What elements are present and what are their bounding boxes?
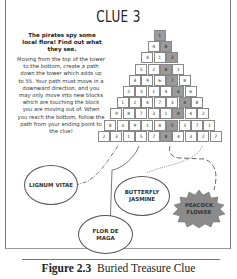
flower-lignum-vitae: LIGNUM VITAE: [24, 165, 78, 205]
path-to-butterfly: [146, 146, 202, 173]
flower-butterfly-jasmine: BUTTERFLY JASMINE: [114, 176, 170, 216]
flower-flor-de-maga: FLOR DE MAGA: [78, 215, 133, 254]
caption-rule: [22, 259, 220, 260]
flower-label: PEACOCK FLOWER: [184, 202, 214, 216]
caption-text: Buried Treasure Clue: [97, 262, 195, 274]
flower-label: LIGNUM VITAE: [29, 182, 73, 189]
flower-label: BUTTERFLY JASMINE: [124, 189, 160, 203]
path-to-peacock: [169, 146, 215, 190]
path-to-lignum: [72, 146, 118, 186]
flower-label: FLOR DE MAGA: [90, 228, 122, 242]
figure-caption: Figure 2.3 Buried Treasure Clue: [0, 262, 237, 274]
caption-label: Figure 2.3: [42, 262, 92, 274]
flower-peacock-flower: PEACOCK FLOWER: [172, 190, 226, 228]
